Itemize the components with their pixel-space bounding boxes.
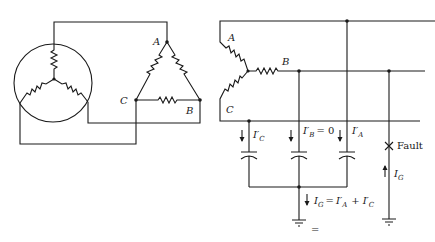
resistor-icon (54, 79, 88, 102)
node-b-dot (198, 98, 202, 102)
phase-a-line (220, 21, 435, 71)
ground-current-equation: IG=I′A+I′C (313, 195, 375, 209)
arrow-up-icon (383, 165, 388, 177)
ground-icon (292, 220, 306, 226)
delta-load (134, 40, 202, 103)
label-b-right: B (281, 56, 289, 67)
wire-b (88, 100, 200, 123)
resistor-icon (51, 42, 57, 79)
fault-current-label: IG (393, 168, 404, 182)
junction-dot (297, 69, 301, 73)
capacitor-a (339, 19, 355, 187)
resistor-icon (136, 97, 200, 103)
capacitor-icon (339, 21, 355, 187)
junction-dot (297, 185, 301, 189)
label-a-left: A (152, 36, 160, 47)
equals-sign: = (311, 224, 319, 235)
label-c-left: C (120, 95, 128, 106)
fault-label: Fault (397, 140, 423, 151)
phase-b-line (248, 68, 425, 74)
capacitor-b (291, 69, 307, 220)
arrow-down-icon (305, 194, 310, 206)
label-c-right: C (226, 104, 234, 115)
arrow-down-icon (240, 130, 245, 142)
resistor-icon (20, 79, 54, 103)
resistor-icon (167, 42, 200, 100)
capacitor-icon (291, 71, 307, 220)
junction-dot (52, 77, 55, 80)
current-ib-label: I′B= 0 (302, 125, 334, 139)
label-b-left: B (185, 105, 193, 116)
junction-dot (247, 119, 251, 123)
generator-circle (14, 44, 92, 122)
resistor-icon (136, 42, 167, 100)
junction-dot (387, 69, 391, 73)
neutral-dot (246, 69, 249, 72)
circuit-diagram: A C B A B C = Fault (0, 0, 435, 242)
label-a-right: A (227, 32, 235, 43)
arrow-down-icon (338, 130, 343, 142)
arrow-down-icon (289, 130, 294, 142)
current-ia-label: I′A (351, 125, 363, 139)
current-ic-label: I′C (252, 129, 265, 143)
generator-wye (14, 42, 92, 122)
wire-a (54, 22, 167, 42)
ground-icon (382, 219, 396, 225)
wire-c (20, 100, 136, 144)
node-a-dot (165, 40, 169, 44)
node-c-dot (134, 98, 138, 102)
junction-dot (345, 19, 349, 23)
phase-c-line (220, 71, 420, 121)
